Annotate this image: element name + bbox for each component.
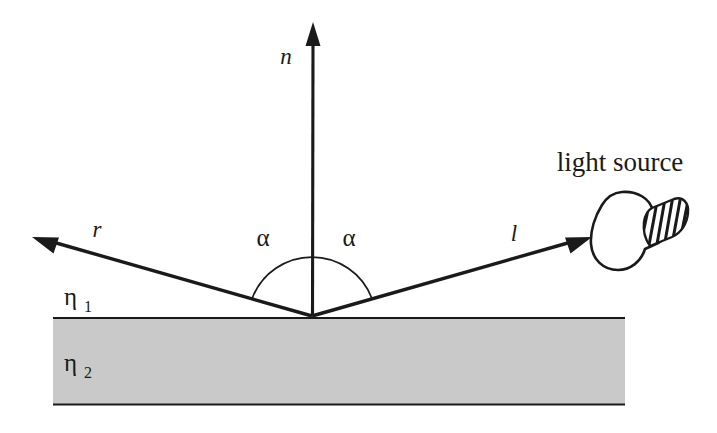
diagram-canvas: n r l α α η 1 η 2 light source xyxy=(0,0,717,433)
normal-vector-shaft xyxy=(313,40,314,316)
medium-slab-group xyxy=(53,317,625,405)
eta-1-symbol: η xyxy=(64,283,77,310)
light-bulb-icon xyxy=(591,192,696,270)
light-vector-label: l xyxy=(511,221,517,246)
eta-2-subscript: 2 xyxy=(84,364,92,381)
eta-2-symbol: η xyxy=(64,349,77,376)
reflection-arrowhead-icon xyxy=(32,237,59,254)
eta-1-subscript: 1 xyxy=(84,298,92,315)
normal-arrowhead-icon xyxy=(306,22,321,46)
light-vector-shaft xyxy=(312,242,573,317)
eta-1-label: η 1 xyxy=(64,283,92,315)
angle-label-right: α xyxy=(342,224,355,251)
light-source-label: light source xyxy=(557,147,684,177)
reflection-diagram-figure: n r l α α η 1 η 2 light source xyxy=(0,0,717,433)
light-arrowhead-icon xyxy=(565,237,592,254)
normal-vector-label: n xyxy=(280,44,292,69)
reflection-vector-label: r xyxy=(93,217,103,242)
normal-vector-group xyxy=(306,22,321,316)
angle-label-left: α xyxy=(256,224,269,251)
medium-2-slab-fill xyxy=(53,317,625,405)
